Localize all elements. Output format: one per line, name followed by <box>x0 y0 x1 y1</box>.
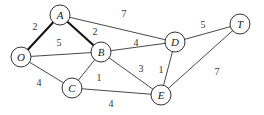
edge-C-E <box>72 88 161 95</box>
network-graph: 227541434157 AOBCDTE <box>0 0 264 115</box>
edge-weight-B-C: 1 <box>97 72 102 83</box>
edge-A-D <box>60 15 175 42</box>
node-B: B <box>91 42 111 62</box>
node-label: B <box>98 46 105 58</box>
edge-weight-C-E: 4 <box>109 98 114 109</box>
edge-B-E <box>101 52 161 95</box>
edge-weight-B-D: 4 <box>134 37 139 48</box>
node-E: E <box>151 85 171 105</box>
node-T: T <box>230 14 250 34</box>
edge-weight-E-T: 7 <box>215 66 220 77</box>
edge-weight-O-A: 2 <box>33 21 38 32</box>
node-label: A <box>56 9 64 21</box>
node-label: C <box>68 82 76 94</box>
node-D: D <box>165 32 185 52</box>
edge-weight-O-C: 4 <box>37 77 42 88</box>
node-label: T <box>237 18 244 30</box>
edge-weight-D-E: 1 <box>159 64 164 75</box>
node-O: O <box>11 47 31 67</box>
node-C: C <box>62 78 82 98</box>
edge-O-B <box>21 52 101 57</box>
edge-weight-A-B: 2 <box>93 26 98 37</box>
edges-layer <box>21 15 240 95</box>
edge-weight-O-B: 5 <box>57 37 62 48</box>
node-label: O <box>17 51 25 63</box>
node-label: E <box>157 89 165 101</box>
node-A: A <box>50 5 70 25</box>
edge-weight-A-D: 7 <box>122 8 127 19</box>
edge-weight-D-T: 5 <box>201 19 206 30</box>
edge-weight-B-E: 3 <box>139 63 144 74</box>
node-label: D <box>170 36 179 48</box>
